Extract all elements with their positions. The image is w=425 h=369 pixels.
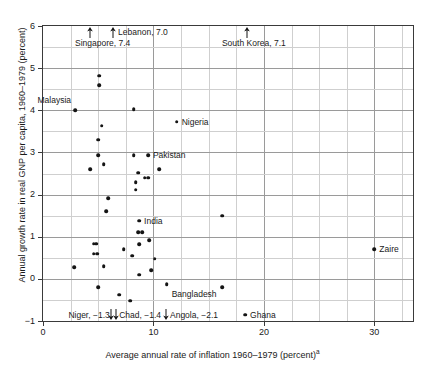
gridline-horizontal <box>43 216 413 217</box>
data-point <box>102 162 106 166</box>
data-point-label: Malaysia <box>37 96 71 105</box>
x-tick-label: 0 <box>40 328 45 337</box>
data-point <box>94 242 98 246</box>
gridline-horizontal <box>43 258 413 259</box>
data-point <box>89 167 93 171</box>
gridline-horizontal <box>43 195 413 196</box>
y-tick-mark <box>38 26 43 27</box>
data-point <box>98 83 102 87</box>
data-point <box>132 154 136 158</box>
data-point <box>106 196 110 200</box>
data-point <box>165 282 169 286</box>
gridline-horizontal <box>43 68 413 69</box>
data-point <box>220 214 224 218</box>
data-point <box>98 74 102 78</box>
data-point <box>73 108 77 112</box>
off-scale-label: Lebanon, 7.0 <box>118 28 168 37</box>
x-tick-label: 20 <box>259 328 269 337</box>
data-point <box>149 269 153 273</box>
data-point <box>137 219 141 223</box>
x-tick-mark <box>43 321 44 326</box>
data-point <box>122 248 126 252</box>
gridline-horizontal <box>43 174 413 175</box>
data-point <box>95 252 99 256</box>
data-point <box>147 238 151 242</box>
y-tick-mark <box>38 110 43 111</box>
data-point <box>128 299 132 303</box>
plot-area: −101234560102030MalaysiaNigeriaPakistanI… <box>42 25 414 322</box>
data-point <box>100 124 104 128</box>
off-scale-arrow-down <box>162 309 169 320</box>
y-tick-mark <box>38 279 43 280</box>
data-point <box>141 230 145 234</box>
gridline-horizontal <box>43 300 413 301</box>
x-tick-mark <box>374 321 375 326</box>
data-point <box>134 180 138 184</box>
data-point <box>134 188 138 192</box>
off-scale-arrow-up <box>87 27 94 38</box>
x-tick-mark <box>153 321 154 326</box>
data-point <box>96 285 100 289</box>
data-point <box>136 230 140 234</box>
data-point <box>131 254 135 258</box>
data-point <box>146 176 150 180</box>
data-point <box>96 154 100 158</box>
off-scale-label: Chad, −1.4 <box>119 311 161 320</box>
data-point <box>373 248 377 252</box>
y-tick-mark <box>38 237 43 238</box>
data-point-label: India <box>144 216 162 225</box>
data-point <box>220 285 224 289</box>
data-point <box>243 313 247 317</box>
off-scale-label: South Korea, 7.1 <box>222 39 286 48</box>
off-scale-label: Singapore, 7.4 <box>75 39 130 48</box>
data-point-label: Ghana <box>250 310 276 319</box>
data-point-label: Zaire <box>379 245 398 254</box>
data-point-label: Nigeria <box>182 117 209 126</box>
data-point <box>146 154 150 158</box>
data-point <box>175 120 179 124</box>
x-axis-title: Average annual rate of inflation 1960–19… <box>0 348 425 360</box>
x-axis-title-superscript: a <box>316 348 320 355</box>
data-point <box>137 243 141 247</box>
data-point-label: Pakistan <box>153 151 186 160</box>
x-tick-label: 30 <box>369 328 379 337</box>
gridline-horizontal <box>43 131 413 132</box>
data-point <box>96 138 100 142</box>
gridline-horizontal <box>43 89 413 90</box>
y-tick-mark <box>38 152 43 153</box>
scatter-plot-figure: −101234560102030MalaysiaNigeriaPakistanI… <box>0 0 425 369</box>
y-tick-mark <box>38 68 43 69</box>
off-scale-label: Angola, −2.1 <box>170 311 218 320</box>
data-point <box>153 257 157 261</box>
x-axis-title-text: Average annual rate of inflation 1960–19… <box>105 350 316 360</box>
gridline-horizontal <box>43 237 413 238</box>
data-point <box>102 264 106 268</box>
data-point <box>157 167 161 171</box>
data-point <box>132 108 136 112</box>
data-point-label: Bangladesh <box>172 289 217 298</box>
x-tick-label: 10 <box>148 328 158 337</box>
y-axis-title: Annual growth rate in real GNP per capit… <box>17 5 27 305</box>
off-scale-label: Niger, −1.3 <box>68 311 109 320</box>
x-tick-mark <box>264 321 265 326</box>
data-point <box>117 293 121 297</box>
data-point <box>72 265 76 269</box>
gridline-horizontal <box>43 279 413 280</box>
data-point <box>104 210 108 214</box>
y-tick-mark <box>38 195 43 196</box>
off-scale-arrow-up <box>109 27 116 38</box>
data-point <box>137 273 141 277</box>
data-point <box>136 171 140 175</box>
off-scale-arrow-up <box>244 27 251 38</box>
gridline-horizontal <box>43 110 413 111</box>
y-tick-label: −1 <box>21 317 35 326</box>
